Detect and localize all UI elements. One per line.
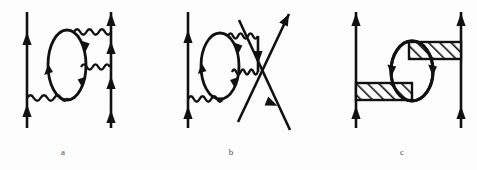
panel-c-right-arrow-lower [456,106,465,119]
panel-a-loop-arrow-right-lower [78,77,87,89]
panel-b-diagonal-fermion-up [238,14,289,122]
panel-b-upper-photon-line [228,33,258,38]
panel-label-c: c [392,148,412,157]
feynman-diagram-figure: a b c [0,0,477,170]
panel-a-fermion-loop [48,30,86,100]
panel-c-group [351,12,465,128]
panel-b-left-arrow-lower [183,106,192,119]
panel-a-right-arrow-4 [106,110,115,123]
panel-b-left-arrow-upper [183,30,192,43]
panel-b-middle-photon-line [232,70,258,75]
panel-b-fermion-loop [201,33,239,99]
panel-label-a: a [53,148,73,157]
panel-a-upper-photon-line [74,29,111,34]
panel-b-group [183,12,290,130]
panel-c-right-arrow-upper [456,13,465,26]
diagram-canvas [0,0,477,170]
panel-a-right-arrow-1 [106,13,115,26]
panel-a-right-arrow-2 [106,41,115,54]
panel-label-b: b [221,148,241,157]
panel-a-right-arrow-3 [106,76,115,89]
panel-a-group [22,12,115,128]
panel-c-left-arrow-lower [351,106,360,119]
panel-c-left-arrow-upper [351,13,360,26]
panel-b-connector-arrowhead [253,51,262,64]
panel-a-left-arrow-upper [22,32,31,45]
panel-a-loop-arrow-left [44,64,53,75]
panel-a-left-arrow-lower [22,104,31,117]
panel-b-loop-arrow-left [198,63,207,74]
panel-b-diagonal-up-arrowhead [279,14,289,27]
